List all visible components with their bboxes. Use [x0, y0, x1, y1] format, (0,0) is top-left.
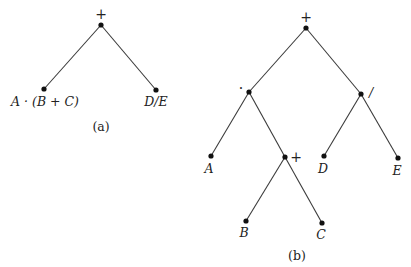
edge-plus-c: [285, 157, 322, 223]
label-a-right: D/E: [143, 94, 167, 109]
edge-div-d: [324, 94, 361, 156]
edge-mult-a: [211, 92, 249, 156]
node-plus: [282, 154, 287, 159]
label-a-root: +: [95, 6, 107, 22]
edge-a-root-left: [44, 25, 101, 89]
node-a: [208, 153, 213, 158]
edge-root-mult: [249, 28, 306, 92]
label-div: /: [368, 85, 375, 100]
node-root: [303, 25, 308, 30]
label-d: D: [317, 161, 328, 176]
node-d: [321, 153, 326, 158]
edge-root-div: [306, 28, 361, 94]
label-e: E: [391, 163, 401, 178]
label-a: A: [203, 161, 213, 176]
label-c: C: [316, 227, 326, 242]
caption-a: (a): [92, 119, 109, 134]
label-plus: +: [290, 149, 302, 165]
node-a-left: [41, 86, 46, 91]
tree-b: + · / A + D E B C (b): [203, 9, 401, 263]
node-a-root: [98, 22, 103, 27]
node-mult: [246, 89, 251, 94]
node-b: [243, 218, 248, 223]
label-root: +: [300, 9, 312, 25]
tree-a: + A · (B + C) D/E (a): [10, 6, 168, 134]
node-e: [395, 155, 400, 160]
node-c: [319, 220, 324, 225]
edge-div-e: [361, 94, 398, 158]
label-a-left: A · (B + C): [10, 94, 79, 109]
node-a-right: [153, 87, 158, 92]
edge-plus-b: [246, 157, 285, 221]
node-div: [358, 91, 363, 96]
caption-b: (b): [288, 248, 306, 263]
label-b: B: [238, 225, 248, 240]
label-mult: ·: [239, 80, 243, 96]
expression-tree-figure: + A · (B + C) D/E (a) + · / A + D E B C …: [0, 0, 411, 267]
edge-mult-plus: [249, 92, 285, 157]
edge-a-root-right: [101, 25, 156, 90]
